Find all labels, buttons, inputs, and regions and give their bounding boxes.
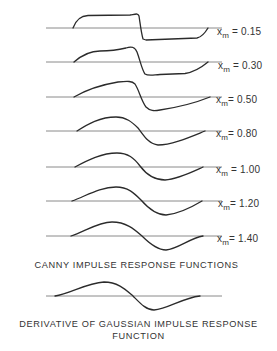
label-xm-0-30: xm = 0.30 [218, 60, 262, 71]
canny-curve-xm-0-30 [46, 47, 222, 75]
impulse-response-figure [0, 0, 277, 351]
canny-curve-xm-0-50 [46, 81, 222, 110]
canny-caption: CANNY IMPULSE RESPONSE FUNCTIONS [0, 260, 275, 270]
canny-curve-xm-1-20 [46, 187, 222, 215]
label-xm-0-15: xm = 0.15 [217, 26, 261, 37]
label-xm-1-00: xm = 1.00 [216, 164, 260, 175]
gaussian-caption-line2: FUNCTION [0, 331, 277, 341]
label-xm-0-50: xm= 0.50 [216, 94, 257, 105]
gaussian-caption-line1: DERIVATIVE OF GAUSSIAN IMPULSE RESPONSE [0, 319, 277, 329]
label-xm-0-80: xm= 0.80 [216, 128, 257, 139]
canny-curve-xm-0-15 [46, 14, 222, 40]
canny-curve-xm-0-80 [46, 117, 222, 145]
label-xm-1-20: xm= 1.20 [218, 198, 259, 209]
canny-curve-xm-1-40 [46, 222, 222, 250]
label-xm-1-40: xm= 1.40 [217, 233, 258, 244]
canny-curve-xm-1-00 [46, 153, 222, 180]
gaussian-derivative-curve [46, 282, 222, 310]
